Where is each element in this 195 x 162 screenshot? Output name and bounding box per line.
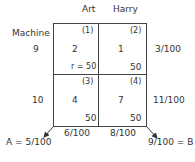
arrow-left-diagonal [44, 127, 53, 137]
left-diagonal-label: A = 5/100 [6, 137, 51, 147]
right-diagonal-label: 9/100 = B [148, 137, 193, 147]
